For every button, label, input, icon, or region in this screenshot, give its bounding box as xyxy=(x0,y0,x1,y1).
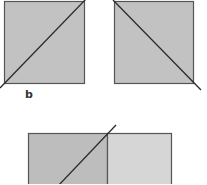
bottom-rectangle xyxy=(29,125,172,184)
panel-label: b xyxy=(25,88,33,101)
right-square xyxy=(113,0,201,90)
left-square xyxy=(0,0,86,88)
light-right-half xyxy=(108,134,172,185)
